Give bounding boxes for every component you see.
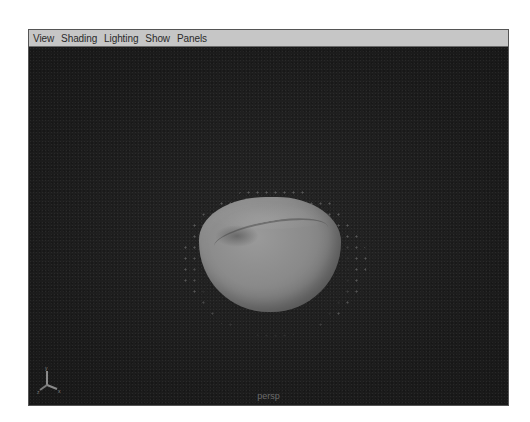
- maya-viewport-panel: View Shading Lighting Show Panels y x z: [28, 29, 509, 406]
- bowl-object[interactable]: [199, 197, 349, 327]
- menu-shading[interactable]: Shading: [61, 33, 97, 44]
- menu-show[interactable]: Show: [145, 33, 170, 44]
- menu-lighting[interactable]: Lighting: [104, 33, 138, 44]
- menu-panels[interactable]: Panels: [177, 33, 207, 44]
- 3d-viewport[interactable]: y x z persp: [29, 47, 508, 405]
- camera-name-label: persp: [29, 391, 508, 401]
- menu-view[interactable]: View: [33, 33, 54, 44]
- panel-menubar: View Shading Lighting Show Panels: [29, 30, 508, 47]
- svg-text:y: y: [45, 365, 48, 371]
